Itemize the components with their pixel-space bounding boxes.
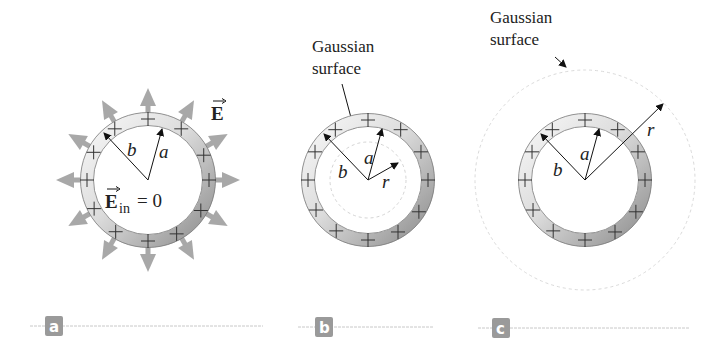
panel-b: Gaussian surface b a r [298, 37, 435, 337]
panel-a: b a E E in = 0 a [30, 88, 263, 336]
panel-a-tag-label: a [49, 318, 59, 336]
gaussian-label-line1: Gaussian [312, 37, 375, 56]
svg-text:= 0: = 0 [137, 190, 162, 211]
gaussian-label-line2: surface [312, 59, 361, 78]
label-r: r [382, 171, 390, 192]
label-b: b [338, 161, 348, 182]
gauss-law-figure: b a E E in = 0 a Gaussian surface [0, 0, 702, 348]
gaussian-pointer-arrow [555, 57, 566, 67]
gaussian-label-line1: Gaussian [490, 8, 553, 27]
svg-text:E: E [105, 191, 118, 212]
label-a: a [364, 147, 374, 168]
panel-c-tag-label: c [496, 320, 505, 338]
panel-b-tag-label: b [319, 319, 330, 337]
field-label-E: E [211, 99, 226, 125]
svg-text:in: in [119, 201, 130, 216]
label-a: a [159, 141, 169, 162]
label-b: b [553, 159, 563, 180]
svg-text:E: E [211, 103, 224, 124]
label-r: r [647, 119, 655, 140]
label-a: a [580, 143, 590, 164]
label-b: b [127, 139, 137, 160]
gaussian-label-line2: surface [490, 30, 539, 49]
panel-c: Gaussian surface b a r [475, 8, 695, 338]
